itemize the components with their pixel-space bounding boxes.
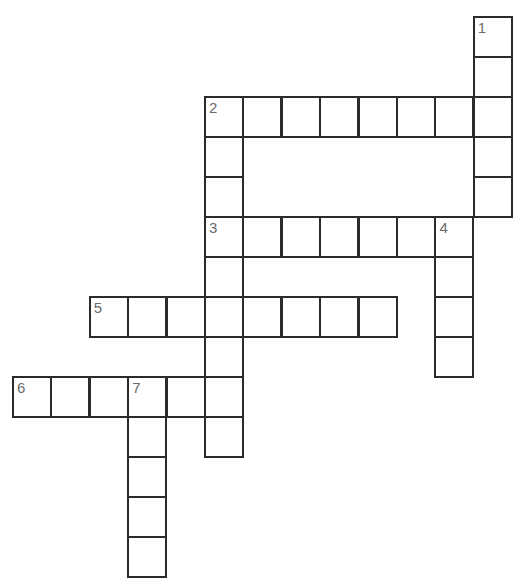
crossword-cell[interactable] <box>204 376 244 418</box>
crossword-cell[interactable] <box>204 416 244 458</box>
crossword-cell[interactable] <box>473 56 513 98</box>
clue-number: 2 <box>209 100 217 115</box>
clue-number: 5 <box>94 300 102 315</box>
crossword-cell[interactable] <box>473 136 513 178</box>
crossword-cell[interactable] <box>434 256 474 298</box>
crossword-cell[interactable] <box>127 416 167 458</box>
crossword-cell[interactable] <box>434 296 474 338</box>
crossword-cell[interactable]: 7 <box>127 376 167 418</box>
crossword-cell[interactable] <box>281 296 321 338</box>
crossword-cell[interactable] <box>242 216 282 258</box>
crossword-cell[interactable] <box>50 376 90 418</box>
crossword-cell[interactable] <box>204 136 244 178</box>
crossword-grid: 1234567 <box>0 0 522 588</box>
crossword-cell[interactable] <box>358 216 398 258</box>
crossword-cell[interactable] <box>204 296 244 338</box>
crossword-cell[interactable] <box>204 176 244 218</box>
crossword-cell[interactable] <box>281 96 321 138</box>
crossword-cell[interactable] <box>127 296 167 338</box>
crossword-cell[interactable] <box>204 256 244 298</box>
crossword-cell[interactable] <box>89 376 129 418</box>
crossword-cell[interactable]: 5 <box>89 296 129 338</box>
crossword-cell[interactable] <box>319 296 359 338</box>
crossword-cell[interactable] <box>242 296 282 338</box>
crossword-cell[interactable]: 1 <box>473 16 513 58</box>
clue-number: 3 <box>209 220 217 235</box>
crossword-cell[interactable]: 6 <box>12 376 52 418</box>
crossword-cell[interactable]: 4 <box>434 216 474 258</box>
crossword-cell[interactable] <box>319 216 359 258</box>
crossword-cell[interactable] <box>396 96 436 138</box>
crossword-cell[interactable]: 2 <box>204 96 244 138</box>
crossword-cell[interactable] <box>319 96 359 138</box>
clue-number: 4 <box>439 220 447 235</box>
crossword-cell[interactable] <box>166 376 206 418</box>
crossword-cell[interactable] <box>358 296 398 338</box>
crossword-cell[interactable] <box>396 216 436 258</box>
crossword-cell[interactable] <box>473 176 513 218</box>
crossword-cell[interactable] <box>127 536 167 578</box>
crossword-cell[interactable] <box>204 336 244 378</box>
crossword-cell[interactable]: 3 <box>204 216 244 258</box>
crossword-cell[interactable] <box>242 96 282 138</box>
crossword-cell[interactable] <box>166 296 206 338</box>
crossword-cell[interactable] <box>358 96 398 138</box>
crossword-cell[interactable] <box>473 96 513 138</box>
clue-number: 6 <box>17 380 25 395</box>
clue-number: 7 <box>132 380 140 395</box>
crossword-cell[interactable] <box>127 456 167 498</box>
crossword-cell[interactable] <box>434 336 474 378</box>
clue-number: 1 <box>478 20 486 35</box>
crossword-cell[interactable] <box>127 496 167 538</box>
crossword-cell[interactable] <box>434 96 474 138</box>
crossword-cell[interactable] <box>281 216 321 258</box>
